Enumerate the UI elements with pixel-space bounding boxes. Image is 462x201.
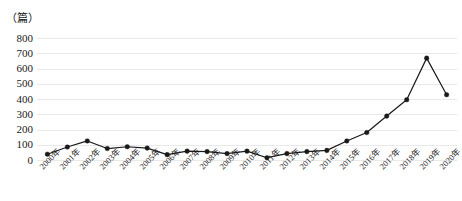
data-point (345, 139, 350, 144)
data-point (364, 130, 369, 135)
y-axis-tick-label: 500 (0, 78, 33, 89)
y-axis-tick-label: 400 (0, 94, 33, 105)
y-axis-tick-label: 600 (0, 63, 33, 74)
y-axis-tick-label: 100 (0, 139, 33, 150)
data-point (424, 56, 429, 61)
y-axis-tick-label: 700 (0, 48, 33, 59)
data-point (384, 114, 389, 119)
data-point (145, 146, 150, 151)
data-point (404, 97, 409, 102)
series-line (47, 58, 446, 158)
line-chart: （篇） 80070060050040030020010002000年2001年2… (0, 0, 462, 201)
data-point (125, 144, 130, 149)
data-point (85, 139, 90, 144)
y-axis-tick-label: 300 (0, 109, 33, 120)
data-series-layer (0, 0, 462, 201)
data-point (105, 146, 110, 151)
data-point (65, 145, 70, 150)
data-point (444, 92, 449, 97)
y-axis-tick-label: 0 (0, 155, 33, 166)
series-markers (45, 56, 449, 160)
y-axis-tick-label: 200 (0, 124, 33, 135)
y-axis-tick-label: 800 (0, 33, 33, 44)
